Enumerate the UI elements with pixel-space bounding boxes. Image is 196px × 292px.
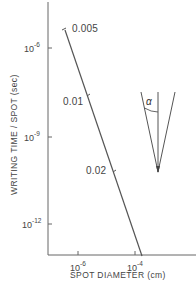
cone-arrowhead	[156, 166, 160, 173]
x-axis-label: SPOT DIAMETER (cm)	[70, 270, 166, 280]
annotation-002: 0.02	[86, 165, 106, 176]
alpha-label: α	[146, 96, 152, 107]
y-axis-label: WRITING TIME / SPOT (sec)	[9, 85, 19, 195]
data-line	[65, 30, 142, 256]
annotation-001: 0.01	[63, 96, 83, 107]
cone-right	[158, 92, 175, 172]
y-tick-label: 10-6	[24, 42, 40, 54]
y-tick-label: 10-12	[22, 218, 41, 230]
annotation-0005: 0.005	[72, 23, 98, 34]
y-tick-label: 10-9	[24, 131, 40, 143]
alpha-arc	[145, 108, 159, 112]
